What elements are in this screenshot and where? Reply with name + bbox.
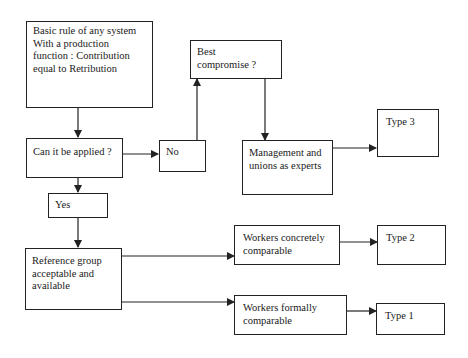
node-can-apply: Can it be applied ? <box>26 138 123 178</box>
node-yes: Yes <box>48 193 108 218</box>
node-type3: Type 3 <box>377 109 439 157</box>
node-best-compromise-label: Best compromise ? <box>197 46 275 71</box>
node-workers-concretely-label: Workers concretely comparable <box>243 232 333 257</box>
node-type2-label: Type 2 <box>386 232 439 245</box>
node-basic-rule-label: Basic rule of any system With a producti… <box>33 25 146 75</box>
node-workers-concretely: Workers concretely comparable <box>234 225 340 265</box>
node-management-unions-label: Management and unions as experts <box>249 147 326 172</box>
node-basic-rule: Basic rule of any system With a producti… <box>26 21 153 108</box>
node-type1: Type 1 <box>376 303 445 335</box>
node-best-compromise: Best compromise ? <box>190 40 282 79</box>
node-no: No <box>159 140 206 172</box>
node-workers-formally-label: Workers formally comparable <box>243 302 340 327</box>
node-reference-group-label: Reference group acceptable and available <box>32 255 115 293</box>
node-type2: Type 2 <box>377 225 446 265</box>
node-can-apply-label: Can it be applied ? <box>33 146 116 159</box>
node-no-label: No <box>166 146 199 159</box>
node-management-unions: Management and unions as experts <box>242 140 333 195</box>
node-type1-label: Type 1 <box>385 310 438 323</box>
node-workers-formally: Workers formally comparable <box>234 295 347 335</box>
node-yes-label: Yes <box>55 199 101 212</box>
node-reference-group: Reference group acceptable and available <box>25 248 122 310</box>
node-type3-label: Type 3 <box>386 116 432 129</box>
